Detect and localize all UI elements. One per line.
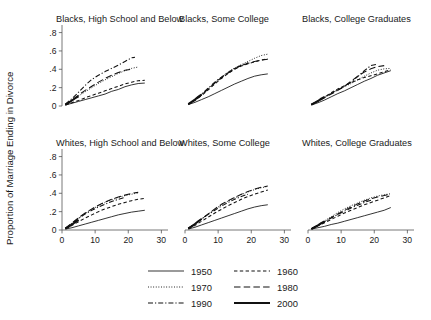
legend-item-label: 1960 xyxy=(277,266,298,277)
x-axis-tick-label: 20 xyxy=(123,235,133,245)
x-axis-tick-label: 10 xyxy=(213,235,223,245)
x-axis-tick-label: 30 xyxy=(157,235,167,245)
panel-title: Blacks, College Graduates xyxy=(302,14,411,24)
legend-item-label: 1950 xyxy=(191,266,212,277)
panel-title: Whites, Some College xyxy=(179,138,270,148)
x-axis-tick-label: 0 xyxy=(60,235,65,245)
panel-title: Whites, College Graduates xyxy=(302,138,412,148)
panel-title: Blacks, Some College xyxy=(179,14,269,24)
legend-item-label: 1970 xyxy=(191,282,212,293)
figure-root: Proportion of Marriage Ending in Divorce… xyxy=(0,0,431,320)
panel-title: Whites, High School and Below xyxy=(56,138,185,148)
legend-item-label: 2000 xyxy=(277,298,298,309)
y-axis-tick-label: .6 xyxy=(49,170,56,180)
y-axis-title: Proportion of Marriage Ending in Divorce xyxy=(4,72,15,245)
y-axis-tick-label: .8 xyxy=(49,152,56,162)
panel-title: Blacks, High School and Below xyxy=(56,14,184,24)
y-axis-tick-label: 0 xyxy=(52,225,57,235)
x-axis-tick-label: 10 xyxy=(90,235,100,245)
x-axis-tick-label: 20 xyxy=(246,235,256,245)
x-axis-tick-label: 30 xyxy=(280,235,290,245)
divorce-proportion-small-multiples-chart: Proportion of Marriage Ending in Divorce… xyxy=(0,0,431,320)
figure-background xyxy=(0,0,431,320)
x-axis-tick-label: 10 xyxy=(336,235,346,245)
x-axis-tick-label: 30 xyxy=(403,235,413,245)
x-axis-tick-label: 20 xyxy=(369,235,379,245)
y-axis-tick-label: .4 xyxy=(49,64,56,74)
y-axis-tick-label: .6 xyxy=(49,46,56,56)
y-axis-tick-label: .2 xyxy=(49,207,56,217)
legend-item-label: 1990 xyxy=(191,298,212,309)
x-axis-tick-label: 0 xyxy=(306,235,311,245)
legend-item-label: 1980 xyxy=(277,282,298,293)
y-axis-tick-label: 0 xyxy=(52,101,57,111)
y-axis-tick-label: .8 xyxy=(49,28,56,38)
y-axis-tick-label: .4 xyxy=(49,188,56,198)
y-axis-tick-label: .2 xyxy=(49,83,56,93)
x-axis-tick-label: 0 xyxy=(183,235,188,245)
